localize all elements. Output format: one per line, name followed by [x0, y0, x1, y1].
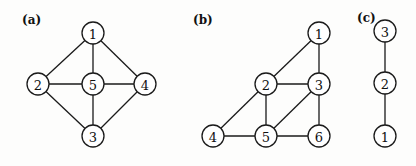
node-label: 6: [315, 130, 323, 145]
node-label: 4: [141, 78, 149, 93]
panel-label: (c): [357, 11, 376, 25]
node-label: 5: [262, 130, 270, 145]
node-5: 5: [255, 125, 277, 147]
graph-diagram-canvas: (a)12543(b)123456(c)321: [0, 0, 416, 166]
panel-label: (a): [22, 13, 41, 27]
graph-panel-b: (b)123456: [193, 13, 330, 147]
node-label: 3: [315, 78, 323, 93]
node-1: 1: [374, 125, 396, 147]
node-label: 3: [381, 25, 389, 40]
node-1: 1: [308, 22, 330, 44]
panel-label: (b): [193, 13, 213, 27]
node-label: 1: [89, 27, 97, 42]
node-label: 2: [381, 77, 389, 92]
graph-panel-a: (a)12543: [22, 13, 156, 147]
node-5: 5: [82, 73, 104, 95]
graph-diagram: (a)12543(b)123456(c)321: [0, 0, 416, 166]
node-4: 4: [202, 125, 224, 147]
node-3: 3: [374, 20, 396, 42]
node-1: 1: [82, 22, 104, 44]
node-label: 2: [34, 78, 42, 93]
node-3: 3: [82, 125, 104, 147]
node-3: 3: [308, 73, 330, 95]
node-6: 6: [308, 125, 330, 147]
node-label: 2: [262, 78, 270, 93]
graph-panel-c: (c)321: [357, 11, 396, 147]
node-label: 5: [89, 78, 97, 93]
node-2: 2: [27, 73, 49, 95]
node-2: 2: [374, 72, 396, 94]
node-4: 4: [134, 73, 156, 95]
node-2: 2: [255, 73, 277, 95]
node-label: 4: [209, 130, 217, 145]
node-label: 1: [381, 130, 389, 145]
node-label: 3: [89, 130, 97, 145]
node-label: 1: [315, 27, 323, 42]
